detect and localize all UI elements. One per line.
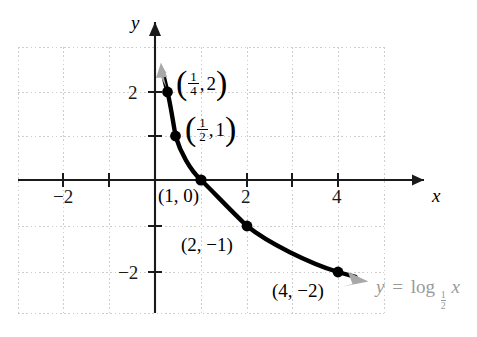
data-point-four-negtwo [333,267,344,278]
fraction-one-half: 1 2 [197,116,208,144]
point-label-quarter-two: ( 1 4 , 2 ) [176,70,227,98]
point-label-four-negtwo: (4, −2) [272,281,324,300]
x-axis [18,175,424,186]
curve-start-arrow-icon [156,63,167,89]
point-label-two-negone: (2, −1) [181,235,233,254]
right-paren: ) [216,69,227,97]
point-y-value: 2 [205,74,217,93]
y-tick-label-2: 2 [128,83,138,102]
data-point-one-zero [195,174,206,185]
right-paren: ) [225,115,236,143]
x-tick-label-4: 4 [332,187,342,206]
equation-equals: = [389,276,406,297]
logarithm-graph-figure: y x −2 2 4 2 −2 ( 1 4 , 2 ) ( 1 2 , [0,0,477,337]
left-paren: ( [176,69,187,97]
data-point-two-negone [242,221,253,232]
data-point-half-one [170,131,181,142]
y-axis [149,22,161,313]
point-label-half-one: ( 1 2 , 1 ) [185,116,236,144]
point-label-one-zero: (1, 0) [158,186,199,205]
equation-label: y = log 1 2 x [376,277,460,311]
point-y-value: 1 [214,120,226,139]
fraction-one-quarter: 1 4 [188,70,199,98]
y-tick-label-neg2: −2 [118,263,138,282]
x-tick-label-2: 2 [241,187,251,206]
left-paren: ( [185,115,196,143]
equation-argument: x [451,276,459,297]
x-axis-label: x [432,186,440,205]
y-axis-label: y [131,13,139,32]
x-tick-label-neg2: −2 [53,187,73,206]
equation-log: log [411,276,435,297]
equation-base-fraction: 1 2 [441,290,446,311]
data-point-quarter-two [162,87,173,98]
equation-lhs: y [376,276,384,297]
